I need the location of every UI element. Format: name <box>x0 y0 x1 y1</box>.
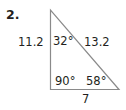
right-triangle <box>0 0 126 110</box>
angle-bottom-right-label: 58° <box>86 75 106 87</box>
side-left-label: 11.2 <box>18 36 44 48</box>
angle-right-label: 90° <box>55 75 75 87</box>
angle-top-label: 32° <box>53 35 73 47</box>
side-hypotenuse-label: 13.2 <box>84 36 110 48</box>
side-bottom-label: 7 <box>82 93 89 105</box>
